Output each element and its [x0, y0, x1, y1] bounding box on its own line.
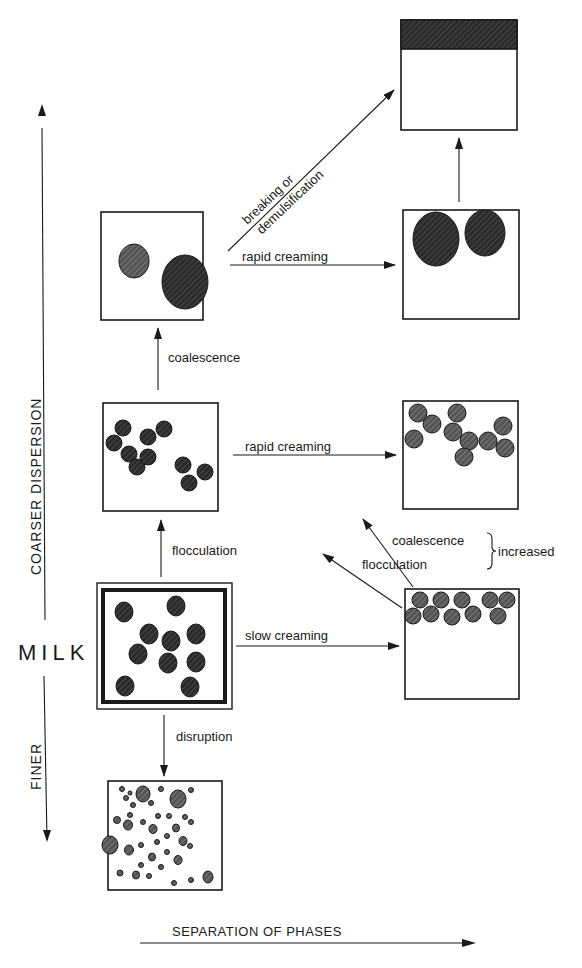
- droplet: [115, 602, 133, 622]
- droplet: [433, 592, 449, 608]
- droplet: [116, 676, 134, 696]
- droplet: [405, 430, 423, 448]
- flocculated-box: [103, 403, 218, 511]
- droplet: [496, 439, 514, 457]
- droplet: [413, 212, 459, 266]
- milk-emulsion-stability-diagram: COARSER DISPERSION FINER MILK SEPARATION…: [0, 0, 582, 968]
- rapid-creaming-mid-label: rapid creaming: [245, 439, 331, 454]
- axis-up-arrow-icon: [38, 104, 46, 116]
- droplet: [167, 596, 185, 616]
- brace-icon: [487, 533, 496, 569]
- state-creamed-slow: [405, 589, 519, 699]
- coalescence-label: coalescence: [168, 350, 240, 365]
- increased-coalescence-arrow: [363, 519, 413, 587]
- rapid-creaming-top-label: rapid creaming: [242, 249, 328, 264]
- droplet: [465, 210, 505, 256]
- droplet: [187, 652, 205, 672]
- droplet: [181, 677, 199, 697]
- droplet: [115, 420, 131, 436]
- droplet: [460, 432, 478, 450]
- increased-coalescence-label: coalescence: [392, 533, 464, 548]
- droplet: [129, 644, 147, 664]
- state-creamed-large: [403, 210, 519, 319]
- droplet: [405, 608, 421, 624]
- droplet: [140, 624, 158, 644]
- droplet: [412, 592, 428, 608]
- state-creamed-flocs: [403, 401, 518, 509]
- separation-of-phases-label: SEPARATION OF PHASES: [172, 924, 342, 939]
- droplet: [444, 609, 460, 625]
- droplet: [423, 606, 439, 622]
- coarser-dispersion-label: COARSER DISPERSION: [28, 398, 44, 575]
- droplet: [175, 457, 191, 473]
- state-coalesced: [101, 212, 208, 320]
- finer-label: FINER: [28, 743, 44, 790]
- droplet: [454, 592, 470, 608]
- slow-creaming-label: slow creaming: [245, 628, 328, 643]
- milk-label: MILK: [18, 640, 89, 665]
- droplet: [187, 624, 205, 644]
- flocculation-label: flocculation: [172, 543, 237, 558]
- state-milk: [97, 583, 232, 709]
- increased-flocculation-label: flocculation: [362, 557, 427, 572]
- droplet: [479, 432, 497, 450]
- droplet: [197, 464, 213, 480]
- droplet: [106, 435, 122, 451]
- vertical-axis: COARSER DISPERSION FINER MILK: [18, 104, 89, 842]
- droplet: [494, 417, 512, 435]
- axis-right-arrow-icon: [462, 939, 476, 947]
- axis-down-arrow-icon: [43, 830, 51, 842]
- droplet: [423, 415, 441, 433]
- oil-layer: [401, 20, 517, 49]
- droplet: [162, 631, 180, 651]
- droplet: [455, 448, 473, 466]
- state-separated: [401, 20, 517, 130]
- droplet: [159, 653, 177, 673]
- droplet: [444, 423, 462, 441]
- droplet: [465, 606, 481, 622]
- increased-label: increased: [498, 544, 554, 559]
- droplet: [490, 608, 506, 624]
- droplet: [499, 592, 515, 608]
- droplet: [156, 421, 172, 437]
- horizontal-axis: SEPARATION OF PHASES: [140, 924, 476, 947]
- state-disrupted: [102, 781, 222, 890]
- droplet: [482, 592, 498, 608]
- droplet: [140, 449, 156, 465]
- droplet: [181, 475, 197, 491]
- droplet: [448, 404, 466, 422]
- droplet: [119, 244, 149, 278]
- droplet: [140, 429, 156, 445]
- finer-axis-line: [44, 676, 47, 840]
- droplet: [162, 255, 208, 309]
- state-flocculated: [103, 403, 218, 511]
- disruption-label: disruption: [176, 729, 232, 744]
